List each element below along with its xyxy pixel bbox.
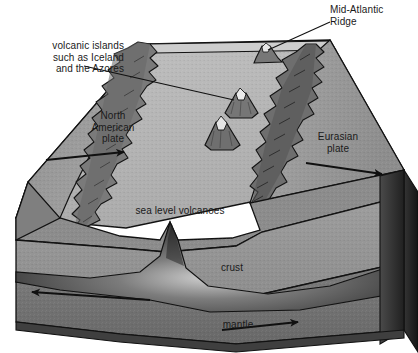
diagram-canvas: volcanic islands such as Iceland and the… xyxy=(0,0,418,353)
block-right-side-face xyxy=(380,170,418,352)
label-crust: crust xyxy=(212,262,252,274)
label-north-american-plate: North American plate xyxy=(82,110,144,145)
label-volcanic-islands: volcanic islands such as Iceland and the… xyxy=(6,40,124,75)
label-mantle: mantle xyxy=(213,319,263,331)
label-mid-atlantic-ridge: Mid-Atlantic Ridge xyxy=(330,4,416,27)
label-sea-level-volcanoes: sea level volcanoes xyxy=(118,205,242,217)
label-eurasian-plate: Eurasian plate xyxy=(305,131,371,154)
